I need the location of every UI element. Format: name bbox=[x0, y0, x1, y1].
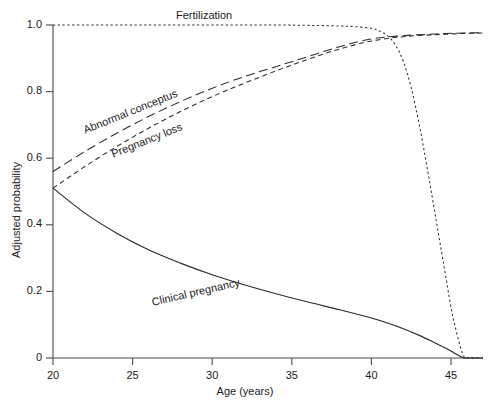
series-paths bbox=[53, 25, 483, 358]
x-tick-label-25: 25 bbox=[113, 370, 153, 381]
x-tick-label-40: 40 bbox=[351, 370, 391, 381]
chart-figure: 1.0 0.8 0.6 0.4 0.2 0 20 25 30 35 40 45 … bbox=[0, 0, 490, 411]
y-tick-label-0-8: 0.8 bbox=[12, 85, 42, 96]
y-tick-label-1-0: 1.0 bbox=[12, 19, 42, 30]
y-tick-label-0-2: 0.2 bbox=[12, 285, 42, 296]
x-tick-label-30: 30 bbox=[192, 370, 232, 381]
y-axis-ticks bbox=[46, 25, 53, 358]
series-label-fertilization: Fertilization bbox=[176, 10, 232, 21]
series-line-fertilization bbox=[53, 25, 483, 358]
y-axis-title: Adjusted probability bbox=[11, 162, 22, 258]
axis-lines bbox=[53, 25, 483, 358]
x-axis-ticks bbox=[53, 358, 451, 365]
x-tick-label-45: 45 bbox=[431, 370, 471, 381]
y-tick-label-0: 0 bbox=[12, 352, 42, 363]
series-line-clinical-pregnancy bbox=[53, 188, 483, 358]
x-axis-title: Age (years) bbox=[205, 386, 285, 397]
x-tick-label-35: 35 bbox=[272, 370, 312, 381]
x-tick-label-20: 20 bbox=[33, 370, 73, 381]
plot-canvas bbox=[0, 0, 490, 411]
